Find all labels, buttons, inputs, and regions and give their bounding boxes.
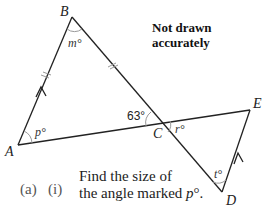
angle-arc-m <box>67 29 82 32</box>
angle-label-63: 63° <box>127 110 145 122</box>
segment-de <box>222 110 250 192</box>
angle-arc-p <box>24 131 32 143</box>
vertex-label-b: B <box>60 5 69 19</box>
question-variable: p <box>186 185 194 201</box>
question-line-2: the angle marked p°. <box>79 185 203 202</box>
angle-label-p: p° <box>35 126 46 138</box>
vertex-label-a: A <box>5 145 14 159</box>
not-drawn-accurately-note: Not drawn accurately <box>152 20 212 50</box>
note-line-2: accurately <box>152 35 212 50</box>
vertex-label-e: E <box>253 97 262 111</box>
question-part-label: (a) <box>20 182 37 197</box>
question-subpart-label: (i) <box>48 182 62 197</box>
note-line-1: Not drawn <box>152 20 212 35</box>
equal-length-tick-icon <box>41 72 51 78</box>
angle-arc-63 <box>146 112 151 126</box>
angle-label-m: m° <box>68 37 81 49</box>
question-line-1: Find the size of <box>79 168 203 185</box>
angle-label-r: r° <box>175 123 184 135</box>
question-line-2-suffix: °. <box>194 185 204 201</box>
vertex-label-d: D <box>226 194 236 208</box>
question-text: Find the size of the angle marked p°. <box>79 168 203 202</box>
question-line-2-prefix: the angle marked <box>79 185 186 201</box>
angle-label-t: t° <box>214 168 222 180</box>
vertex-label-c: C <box>153 127 162 141</box>
